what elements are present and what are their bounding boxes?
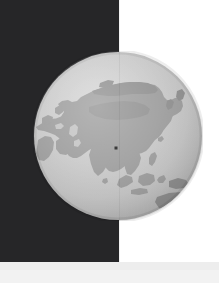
location-marker[interactable]	[115, 147, 118, 150]
panel-seam	[119, 0, 120, 262]
globe-svg	[33, 51, 203, 221]
screenshot-stage	[0, 0, 219, 283]
bottom-band	[0, 262, 219, 283]
bottom-band-inner	[0, 270, 219, 283]
globe[interactable]	[33, 51, 203, 221]
